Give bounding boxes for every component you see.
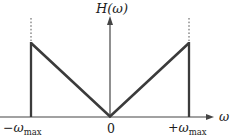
left-cutoff-subscript: max xyxy=(24,127,42,137)
right-cutoff-symbol: +ω xyxy=(168,120,189,135)
right-cutoff-subscript: max xyxy=(189,127,207,137)
origin-label: 0 xyxy=(107,121,115,136)
x-axis-label: ω xyxy=(219,109,229,124)
figure-canvas: H(ω) ω 0 −ωmax +ωmax xyxy=(0,0,234,138)
x-axis-arrowhead-icon xyxy=(206,114,214,120)
y-axis-label: H(ω) xyxy=(95,1,128,16)
left-cutoff-label: −ωmax xyxy=(3,120,42,137)
left-cutoff-symbol: −ω xyxy=(3,120,24,135)
y-axis-arrowhead-icon xyxy=(107,16,113,25)
right-cutoff-label: +ωmax xyxy=(168,120,207,137)
frequency-response-figure: H(ω) ω 0 −ωmax +ωmax xyxy=(0,0,234,138)
